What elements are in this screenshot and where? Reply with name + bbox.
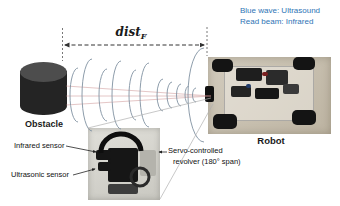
robot-component xyxy=(266,70,288,85)
robot-component xyxy=(246,84,251,88)
legend-line-infrared: Read beam: Infrared xyxy=(240,16,320,27)
robot-photo xyxy=(208,57,331,134)
infrared-sensor-module xyxy=(96,150,111,160)
legend-line-ultrasound: Blue wave: Ultrasound xyxy=(240,5,320,16)
obstacle-label: Obstacle xyxy=(10,119,78,129)
sensor-body xyxy=(108,148,138,182)
robot-wheel xyxy=(212,59,233,72)
distance-label: distF xyxy=(100,25,162,41)
robot-wheel xyxy=(293,57,315,70)
servo-revolver-label: Servo-controlled revolver (180° span) xyxy=(168,146,241,167)
robot-wheel xyxy=(292,110,316,125)
ultrasonic-sensor-module xyxy=(98,162,111,171)
robot-wheel xyxy=(213,114,237,129)
robot-component xyxy=(236,68,262,81)
robot-front-sensor xyxy=(205,86,214,102)
infrared-beam-lines xyxy=(66,86,211,105)
legend: Blue wave: Ultrasound Read beam: Infrare… xyxy=(240,5,320,27)
servo-label-line2: revolver (180° span) xyxy=(168,157,241,168)
distance-label-base: dist xyxy=(116,25,141,39)
servo-label-line1: Servo-controlled xyxy=(168,146,223,155)
obstacle-cylinder-top xyxy=(20,62,67,82)
ultrasonic-sensor-label: Ultrasonic sensor xyxy=(11,170,69,181)
robot-component xyxy=(262,72,268,76)
robot-component xyxy=(283,84,299,94)
distance-label-subscript: F xyxy=(141,31,147,41)
sensor-base xyxy=(108,184,138,194)
sensor-mount xyxy=(140,150,156,176)
robot-label: Robot xyxy=(240,135,302,146)
figure-canvas: Blue wave: Ultrasound Read beam: Infrare… xyxy=(0,0,340,206)
infrared-sensor-label: Infrared sensor xyxy=(14,141,64,152)
robot-component xyxy=(255,88,279,99)
sensor-inset-photo xyxy=(88,128,160,200)
